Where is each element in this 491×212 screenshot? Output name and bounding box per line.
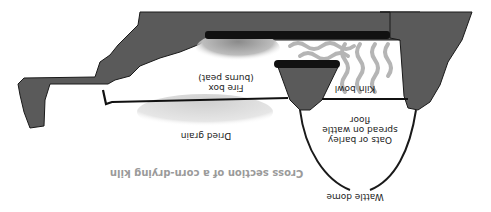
rock-mass-right xyxy=(380,12,472,110)
kiln-cross-section-diagram xyxy=(0,0,491,212)
kiln-bowl-text: Kiln bowl xyxy=(330,84,380,94)
kiln-top-bar xyxy=(205,31,390,39)
dried-grain-text: Dried grain xyxy=(180,131,232,141)
grain-floor-label: Oats or barley spread on wattle floor xyxy=(320,115,400,145)
grain-line-3: floor xyxy=(320,115,400,125)
wattle-dome-text: Wattle dome xyxy=(325,192,385,202)
fire-box-label: Fire box (burns peat) xyxy=(196,73,256,93)
kiln-bowl-label: Kiln bowl xyxy=(330,84,380,94)
kiln-bowl-rim xyxy=(274,60,340,68)
kiln-bowl-shape xyxy=(278,67,338,110)
figure-title: Cross section of a corn-drying kiln xyxy=(110,168,303,179)
grain-line-1: Oats or barley xyxy=(320,135,400,145)
fire-box-text: Fire box xyxy=(196,83,256,93)
wattle-dome-label: Wattle dome xyxy=(325,192,385,202)
grain-line-2: spread on wattle xyxy=(320,125,400,135)
dried-grain-label: Dried grain xyxy=(180,131,232,141)
fire-box-note: (burns peat) xyxy=(196,73,256,83)
